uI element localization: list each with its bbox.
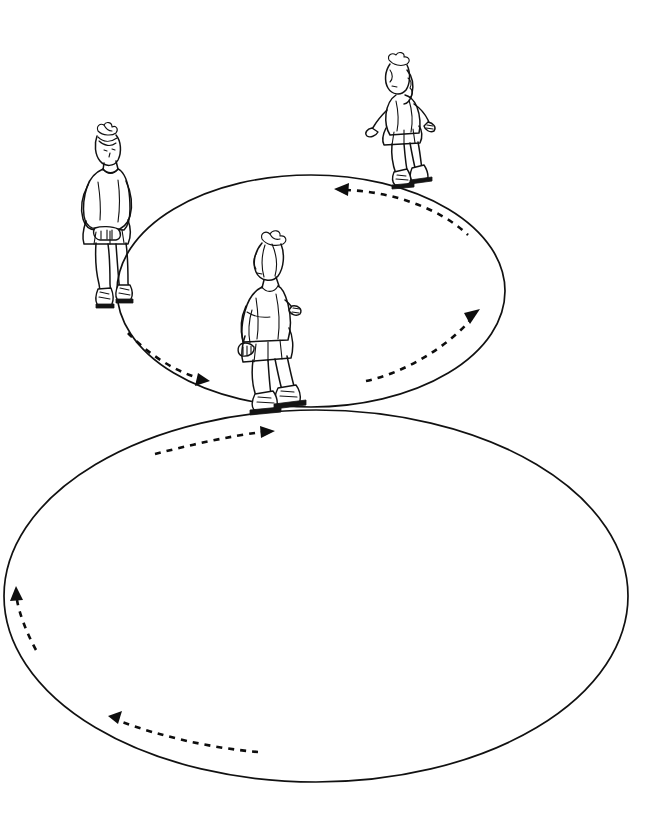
skater-topright-face — [390, 70, 397, 87]
skater-topright-torso-fold — [396, 101, 398, 131]
skater-left-hair — [98, 137, 117, 141]
drawing-canvas — [0, 0, 669, 830]
upper-circle-top-arrow-head — [334, 183, 349, 196]
skater-center-neck — [262, 277, 279, 288]
skating-diagram-svg — [0, 0, 669, 830]
upper-circle-bottom-left-arrow-shaft — [128, 333, 198, 378]
skater-left-blade-near — [96, 304, 114, 308]
skater-center-torso-fold-2 — [276, 294, 279, 339]
skater-topright-torso — [386, 95, 420, 135]
lower-circle — [4, 410, 628, 782]
skater-center-hand-near — [238, 343, 254, 356]
skater-left-torso — [84, 169, 130, 230]
skater-top-right-gliding — [366, 53, 435, 189]
skater-left-face-features — [104, 149, 115, 157]
skater-left-blade-far — [116, 299, 133, 303]
skater-topright-hand-back — [424, 122, 435, 132]
lower-circle-left-arrow — [10, 586, 36, 650]
skater-center-gliding — [238, 231, 306, 415]
upper-circle-right-arrow-shaft — [366, 318, 472, 381]
lower-circle-group — [4, 410, 628, 782]
upper-circle-right-arrow — [366, 309, 480, 381]
skater-topright-skirt — [383, 126, 422, 145]
lower-circle-top-arrow-head — [260, 426, 275, 438]
upper-circle — [117, 175, 505, 407]
upper-circle-right-arrow-head — [464, 309, 480, 324]
skater-center-hair-bow-detail — [270, 234, 280, 239]
skater-center-hand-far — [289, 306, 301, 315]
skater-center-head — [254, 243, 283, 280]
upper-circle-group — [117, 175, 505, 407]
skater-center-hair-2 — [262, 245, 265, 277]
lower-circle-bottom-arrow-shaft — [122, 722, 258, 752]
skater-center-hair — [272, 244, 276, 276]
upper-circle-bottom-left-arrow-head — [195, 373, 210, 386]
lower-circle-top-arrow-shaft — [155, 432, 262, 454]
skater-left-hair-bow-detail — [104, 125, 112, 131]
lower-circle-left-arrow-head — [10, 586, 23, 601]
lower-circle-left-arrow-shaft — [17, 600, 36, 650]
skater-topright-torso-fold-2 — [409, 100, 412, 132]
skater-left-standing — [82, 123, 133, 308]
skater-topright-hand-front — [366, 128, 378, 137]
skater-left-torso-folds — [98, 182, 100, 220]
skater-center-collar — [262, 286, 278, 291]
skater-left-torso-folds-2 — [118, 180, 120, 222]
skater-topright-head — [386, 64, 410, 94]
upper-circle-bottom-left-arrow — [128, 333, 210, 386]
upper-circle-top-arrow-shaft — [345, 190, 468, 235]
lower-circle-bottom-arrow-head — [108, 711, 122, 724]
skater-center-torso-fold — [256, 298, 258, 339]
skater-topright-hair-bow — [389, 53, 410, 66]
